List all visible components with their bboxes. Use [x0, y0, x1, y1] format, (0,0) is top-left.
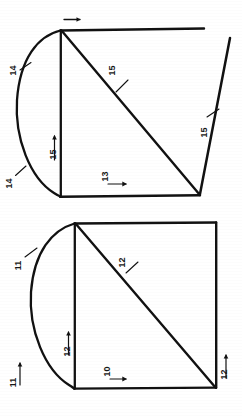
upper-figure	[16, 17, 231, 197]
leader-12-diagonal	[126, 262, 138, 273]
upper-top-edge	[61, 29, 205, 31]
arrow-right-icon-13	[108, 182, 127, 187]
line-art-canvas	[0, 0, 242, 416]
leader-15-diagonal	[116, 80, 128, 92]
leader-11-upper	[25, 248, 37, 257]
label-lower-right: 12	[220, 369, 229, 379]
label-upper-bottom: 13	[101, 171, 110, 181]
label-lower-vertical: 12	[63, 346, 72, 356]
arrow-up-icon-11	[18, 362, 23, 385]
leader-15-right	[207, 109, 219, 117]
label-upper-diagonal: 15	[108, 65, 117, 75]
lower-bottom-edge	[74, 388, 216, 389]
leader-14-lower	[16, 166, 27, 176]
label-upper-right: 15	[200, 127, 209, 137]
lower-figure	[18, 223, 229, 389]
upper-bottom-edge	[60, 195, 200, 197]
label-lower-bottom: 10	[103, 366, 112, 376]
arrow-right-icon	[64, 17, 81, 22]
lower-diagonal	[76, 224, 216, 388]
upper-right-slant	[200, 38, 230, 195]
upper-left-arc	[17, 31, 61, 197]
upper-diagonal	[62, 31, 200, 195]
drawing-page: 14 14 15 15 13 15 11 11 12 12 10 12	[0, 0, 242, 416]
label-lower-diagonal: 12	[118, 257, 127, 267]
label-upper-arc-bottom: 14	[5, 178, 14, 188]
label-lower-arc-top: 11	[14, 261, 23, 271]
arrow-right-icon-10	[110, 377, 127, 382]
label-lower-arc-bottom: 11	[9, 378, 18, 388]
lower-top-edge	[75, 223, 217, 224]
label-upper-arc-top: 14	[9, 65, 18, 75]
label-upper-vertical: 15	[49, 149, 58, 159]
